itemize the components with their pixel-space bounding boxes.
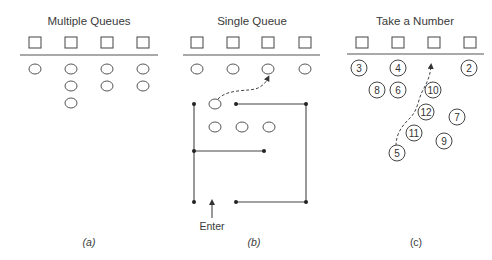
svg-text:10: 10 — [427, 85, 439, 96]
customer-icon — [299, 64, 311, 74]
customer-icon — [263, 122, 275, 132]
panel-c-title: Take a Number — [376, 15, 454, 27]
customer-number-5: 5 — [389, 145, 405, 161]
server-box — [191, 37, 203, 48]
panel-multiple-queues: Multiple Queues (a) — [20, 15, 158, 248]
panel-single-queue: Single Queue — [183, 15, 320, 248]
server-box — [299, 37, 311, 48]
customer-icon — [236, 122, 248, 132]
customer-icon — [29, 64, 41, 74]
customer-icon — [209, 122, 221, 132]
customer-number-8: 8 — [369, 82, 385, 98]
dashed-arrow-to-server — [218, 78, 268, 99]
svg-text:7: 7 — [454, 112, 460, 123]
server-box — [392, 37, 404, 48]
customer-number-2: 2 — [461, 60, 477, 76]
server-box — [29, 37, 41, 48]
customer-icon — [262, 64, 274, 74]
customer-icon — [137, 64, 149, 74]
panel-a-caption: (a) — [83, 236, 96, 248]
panel-take-a-number: Take a Number 3 4 2 8 6 10 12 7 11 9 5 (… — [347, 15, 484, 248]
customers-a — [29, 64, 149, 108]
servers-b — [191, 37, 311, 48]
svg-text:8: 8 — [374, 85, 380, 96]
server-box — [428, 37, 440, 48]
enter-label: Enter — [199, 220, 225, 232]
customer-icon — [65, 81, 77, 91]
customer-number-7: 7 — [449, 109, 465, 125]
panel-b-title: Single Queue — [217, 15, 287, 27]
barrier-posts — [192, 102, 308, 204]
customer-icon — [227, 64, 239, 74]
servers-c — [356, 37, 476, 48]
server-box — [65, 37, 77, 48]
svg-text:12: 12 — [420, 107, 432, 118]
serpentine-barriers — [194, 104, 306, 202]
customer-number-12: 12 — [418, 104, 434, 120]
server-box — [464, 37, 476, 48]
svg-text:3: 3 — [356, 63, 362, 74]
customer-icon — [65, 98, 77, 108]
svg-text:4: 4 — [395, 63, 401, 74]
customer-icon — [101, 81, 113, 91]
svg-text:6: 6 — [395, 85, 401, 96]
server-box — [262, 37, 274, 48]
panel-a-title: Multiple Queues — [47, 15, 130, 27]
svg-text:11: 11 — [409, 128, 420, 139]
queue-configurations-diagram: Multiple Queues (a) Single Queue — [0, 0, 492, 260]
customer-icon — [137, 81, 149, 91]
customer-number-10: 10 — [425, 82, 441, 98]
panel-c-caption: (c) — [410, 236, 422, 248]
customer-icon — [101, 64, 113, 74]
customer-number-3: 3 — [351, 60, 367, 76]
customer-number-11: 11 — [406, 125, 422, 141]
server-box — [101, 37, 113, 48]
server-box — [356, 37, 368, 48]
customer-icon — [65, 64, 77, 74]
customer-number-4: 4 — [390, 60, 406, 76]
svg-text:9: 9 — [441, 136, 447, 147]
customer-number-9: 9 — [436, 133, 452, 149]
server-box — [137, 37, 149, 48]
svg-text:2: 2 — [466, 63, 472, 74]
svg-text:5: 5 — [394, 148, 400, 159]
customer-icon — [209, 99, 221, 109]
customers-b — [191, 64, 311, 132]
servers-a — [29, 37, 149, 48]
customer-icon — [191, 64, 203, 74]
panel-b-caption: (b) — [248, 236, 261, 248]
customer-number-6: 6 — [390, 82, 406, 98]
numbered-customers: 3 4 2 8 6 10 12 7 11 9 5 — [351, 60, 477, 161]
server-box — [227, 37, 239, 48]
